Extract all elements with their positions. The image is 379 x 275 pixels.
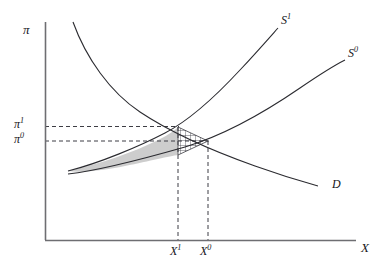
- y-axis-title: π: [23, 22, 30, 38]
- supply-curve-s1-label: S1: [281, 12, 291, 28]
- x-tick-label-x1: X1: [170, 243, 181, 259]
- y-tick-label-pi1-sup: 1: [20, 116, 24, 125]
- x-tick-label-x1-sup: 1: [177, 243, 181, 252]
- supply-curve-s0-label: S0: [348, 45, 358, 61]
- supply-curve-s0: [68, 60, 345, 174]
- x-tick-label-x0-sup: 0: [207, 243, 211, 252]
- supply-curve-s0-label-sup: 0: [354, 45, 358, 54]
- y-tick-label-pi1: π1: [14, 116, 24, 132]
- chart-canvas: [0, 0, 379, 275]
- axes: [45, 22, 356, 241]
- shaded-cost-region: [68, 127, 178, 172]
- x-tick-label-x0: X0: [200, 243, 211, 259]
- demand-curve-label: D: [332, 177, 341, 192]
- supply-demand-figure: π X π1 π0 X1 X0 S1 S0 D: [0, 0, 379, 275]
- y-tick-label-pi0-sup: 0: [20, 131, 24, 140]
- supply-curve-s1-label-sup: 1: [287, 12, 291, 21]
- y-tick-label-pi0: π0: [14, 131, 24, 147]
- x-axis-title: X: [361, 240, 369, 256]
